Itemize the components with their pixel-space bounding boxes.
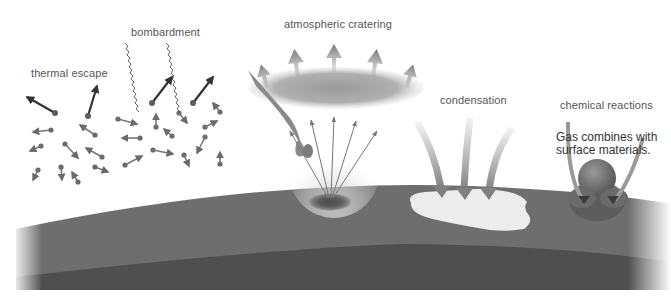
condensation [410,118,530,231]
thermal-escape-molecules [27,86,108,185]
bombardment-molecules [115,77,222,168]
bombardment-label: bombardment [131,26,200,38]
chemical-reactions-note: Gas combines with surface materials. [556,131,657,157]
thermal-escape-label: thermal escape [31,67,108,79]
atmospheric-cratering-label: atmospheric cratering [284,18,392,30]
chemical-note-line2: surface materials. [556,144,657,157]
condensation-label: condensation [440,94,507,106]
chemical-reactions-label: chemical reactions [560,99,653,111]
